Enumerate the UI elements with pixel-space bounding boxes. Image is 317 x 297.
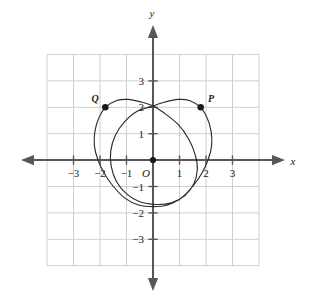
origin-label: O [142, 167, 150, 179]
x-axis-label: x [290, 155, 296, 167]
point-p-dot [197, 104, 204, 111]
point-p-label: P [208, 93, 215, 104]
y-axis-arrow-down [148, 278, 158, 291]
y-axis-label: y [149, 7, 155, 19]
x-axis-arrow-left [21, 155, 34, 165]
point-q-label: Q [91, 93, 98, 104]
point-q-dot [102, 104, 109, 111]
y-axis-arrow-up [148, 25, 158, 38]
y-tick-label-3: 3 [139, 75, 145, 87]
x-tick-label-1: 1 [177, 167, 183, 179]
x-tick-label--1: −1 [121, 167, 133, 179]
coordinate-plane-figure: −3 −2 −1 1 2 3 3 2 1 −1 −2 −3 x y O P [0, 0, 317, 297]
y-tick-label--2: −2 [132, 207, 144, 219]
origin-dot [150, 157, 156, 163]
y-tick-label-1: 1 [139, 128, 145, 140]
x-tick-label-3: 3 [230, 167, 236, 179]
y-tick-label--1: −1 [132, 181, 144, 193]
y-tick-label-2: 2 [139, 101, 145, 113]
x-tick-label--3: −3 [68, 167, 80, 179]
x-axis-arrow-right [272, 155, 285, 165]
y-tick-label--3: −3 [132, 233, 144, 245]
graph-svg: −3 −2 −1 1 2 3 3 2 1 −1 −2 −3 x y O P [0, 0, 317, 297]
